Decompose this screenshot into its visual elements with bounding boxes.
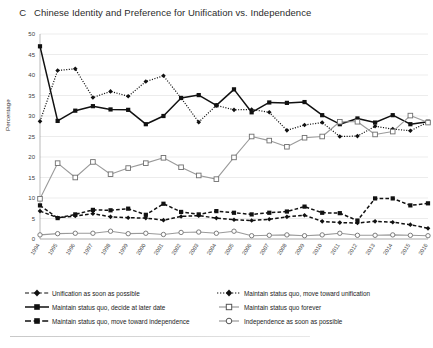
svg-text:25: 25 (28, 134, 35, 140)
svg-text:50: 50 (28, 31, 35, 37)
svg-text:1997: 1997 (82, 242, 94, 256)
legend-item: Maintain status quo, move toward indepen… (24, 314, 224, 328)
svg-text:2014: 2014 (382, 242, 394, 256)
svg-text:2015: 2015 (400, 242, 412, 256)
svg-text:5: 5 (32, 216, 36, 222)
svg-text:30: 30 (28, 113, 35, 119)
svg-text:1996: 1996 (64, 242, 76, 256)
legend-key-solid-square-black (24, 301, 50, 313)
legend-label: Maintain status quo, move toward unifica… (244, 290, 370, 297)
legend-label: Maintain status quo forever (244, 304, 321, 311)
svg-text:0: 0 (32, 236, 36, 242)
svg-text:2004: 2004 (206, 242, 218, 256)
svg-text:1999: 1999 (117, 242, 129, 256)
svg-text:35: 35 (28, 93, 35, 99)
legend-label: Maintain status quo, move toward indepen… (52, 318, 190, 325)
svg-text:10: 10 (28, 195, 35, 201)
figure-panel-c: C Chinese Identity and Preference for Un… (0, 0, 433, 348)
panel-letter: C (0, 7, 26, 18)
legend-item: Independence as soon as possible (216, 314, 431, 328)
page-title: Chinese Identity and Preference for Unif… (34, 7, 311, 18)
legend-column-left: Unification as soon as possible Maintain… (24, 286, 224, 328)
legend-key-solid-circle-open-gray (216, 315, 242, 327)
svg-text:2013: 2013 (364, 242, 376, 256)
legend-label: Unification as soon as possible (52, 290, 140, 297)
svg-text:1994: 1994 (29, 242, 41, 256)
line-chart: 0510152025303540455019941995199619971998… (0, 26, 433, 282)
legend-key-solid-square-open-gray (216, 301, 242, 313)
svg-text:2000: 2000 (135, 242, 147, 256)
svg-text:2010: 2010 (311, 242, 323, 256)
svg-text:20: 20 (28, 154, 35, 160)
svg-text:2005: 2005 (223, 242, 235, 256)
svg-text:2003: 2003 (188, 242, 200, 256)
plot-area: Percentage 05101520253035404550199419951… (0, 26, 433, 282)
legend-item: Maintain status quo, move toward unifica… (216, 286, 431, 300)
svg-text:2006: 2006 (241, 242, 253, 256)
legend-label: Independence as soon as possible (244, 318, 342, 325)
legend-column-right: Maintain status quo, move toward unifica… (216, 286, 431, 328)
legend-item: Maintain status quo forever (216, 300, 431, 314)
legend-item: Maintain status quo, decide at later dat… (24, 300, 224, 314)
legend-key-dashed-diamond-black (24, 287, 50, 299)
legend-item: Unification as soon as possible (24, 286, 224, 300)
legend-key-dotted-diamond-black (216, 287, 242, 299)
figure-title-row: C Chinese Identity and Preference for Un… (0, 7, 433, 18)
svg-text:2001: 2001 (153, 242, 165, 256)
svg-text:2011: 2011 (329, 242, 340, 255)
y-axis-label: Percentage (4, 99, 11, 131)
svg-text:2008: 2008 (276, 242, 288, 256)
svg-text:40: 40 (28, 72, 35, 78)
svg-text:45: 45 (28, 52, 35, 58)
svg-text:2002: 2002 (170, 242, 182, 256)
svg-text:1995: 1995 (47, 242, 59, 256)
svg-text:15: 15 (28, 175, 35, 181)
svg-text:2007: 2007 (258, 242, 270, 256)
svg-text:2012: 2012 (347, 242, 359, 256)
legend-key-dashed-square-black (24, 315, 50, 327)
footer-divider (10, 336, 310, 337)
chart-legend: Unification as soon as possible Maintain… (0, 286, 433, 330)
legend-label: Maintain status quo, decide at later dat… (52, 304, 165, 311)
svg-text:1998: 1998 (100, 242, 112, 256)
svg-text:2016: 2016 (417, 242, 429, 256)
svg-text:2009: 2009 (294, 242, 306, 256)
